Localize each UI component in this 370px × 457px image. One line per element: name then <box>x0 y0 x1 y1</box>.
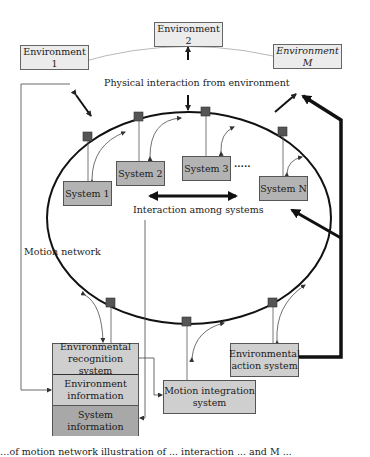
recognition-stack: Environmental recognition system Environ… <box>52 343 139 436</box>
motion-network-ring <box>47 112 331 324</box>
environment-2-box: Environment 2 <box>154 22 223 47</box>
network-nodes <box>83 107 287 326</box>
system-1-box: System 1 <box>63 181 112 206</box>
environment-m-box: Environment M <box>273 44 342 69</box>
interaction-among-systems-label: Interaction among systems <box>133 204 264 215</box>
recognition-system-box: Environmental recognition system <box>53 344 138 375</box>
physical-interaction-label: Physical interaction from environment <box>104 77 290 88</box>
motion-integration-box: Motion integration system <box>163 380 256 414</box>
system-information-box: System information <box>53 406 138 436</box>
figure-caption: …of motion network illustration of ... i… <box>0 446 292 457</box>
systems-ellipsis: ····· <box>234 160 251 171</box>
environment-1-box: Environment 1 <box>20 45 89 70</box>
motion-network-label: Motion network <box>24 246 101 257</box>
environment-information-box: Environment information <box>53 375 138 406</box>
system-2-box: System 2 <box>116 161 165 186</box>
environmental-action-box: Environmental action system <box>230 343 299 377</box>
system-n-box: System N <box>259 176 308 201</box>
system-3-box: System 3 <box>182 156 231 181</box>
